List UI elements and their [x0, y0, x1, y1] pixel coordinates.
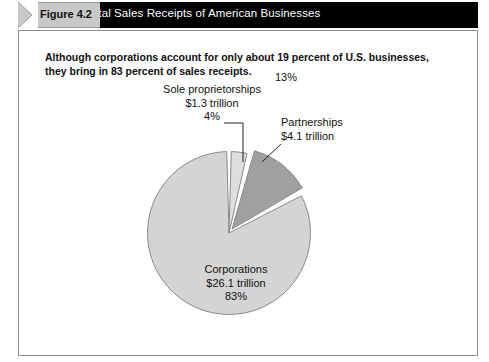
callout-sole-proprietorships: Sole proprietorships $1.3 trillion 4%: [142, 83, 282, 124]
callout-partnerships-value: $4.1 trillion: [281, 130, 411, 144]
figure-title: Total Sales Receipts of American Busines…: [86, 7, 320, 19]
figure-body-panel: Although corporations account for only a…: [18, 30, 478, 356]
callout-sole-name: Sole proprietorships: [142, 83, 282, 97]
figure-header: Total Sales Receipts of American Busines…: [0, 2, 489, 30]
figure-number-label: Figure 4.2: [40, 8, 92, 20]
callout-corporations: Corporations $26.1 trillion 83%: [161, 263, 311, 304]
figure-title-bar: Total Sales Receipts of American Busines…: [62, 2, 478, 28]
callout-corporations-value: $26.1 trillion: [161, 277, 311, 291]
callout-sole-value: $1.3 trillion: [142, 97, 282, 111]
pie-chart-svg: [19, 31, 479, 357]
slice-label-partnerships-percent: 13%: [256, 71, 316, 85]
callout-partnerships-name: Partnerships: [281, 116, 411, 130]
pie-chart: Sole proprietorships $1.3 trillion 4% Pa…: [19, 31, 479, 357]
callout-corporations-name: Corporations: [161, 263, 311, 277]
figure-container: Total Sales Receipts of American Busines…: [0, 0, 489, 362]
chevron-right-icon: [18, 2, 38, 28]
callout-corporations-percent: 83%: [161, 290, 311, 304]
callout-partnerships: Partnerships $4.1 trillion: [281, 116, 411, 143]
callout-sole-percent: 4%: [142, 110, 282, 124]
